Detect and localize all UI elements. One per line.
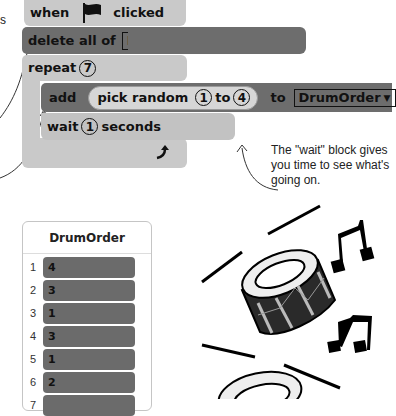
list-item[interactable]: 51 xyxy=(23,348,153,370)
item-value[interactable]: 1 xyxy=(43,349,135,370)
item-index: 3 xyxy=(23,307,43,319)
dropdown-value: DrumOrder xyxy=(299,88,381,108)
item-value[interactable]: 3 xyxy=(43,280,135,301)
item-index: 1 xyxy=(23,261,43,273)
list-item[interactable]: 7 xyxy=(23,394,153,416)
repeat-block-foot xyxy=(22,138,187,168)
music-note-icon xyxy=(331,220,375,273)
list-monitor-drumorder[interactable]: DrumOrder 14 23 31 43 51 62 7 xyxy=(22,221,152,411)
delete-all-label: delete all of xyxy=(28,31,116,51)
list-dropdown[interactable]: DrumOrder▼ xyxy=(294,89,396,107)
list-item[interactable]: 43 xyxy=(23,325,153,347)
random-to-input[interactable]: 4 xyxy=(233,89,250,106)
to-label: to xyxy=(270,88,285,108)
music-note-icon xyxy=(327,315,372,353)
repeat-count-input[interactable]: 7 xyxy=(79,60,96,77)
loop-arrow-icon xyxy=(155,145,171,161)
add-label: add xyxy=(49,88,76,108)
random-from-input[interactable]: 1 xyxy=(195,89,212,106)
drum-icon xyxy=(235,240,335,333)
add-to-list-block[interactable]: add pick random 1 to 4 to DrumOrder▼ xyxy=(41,83,392,112)
wait-block[interactable]: wait 1 seconds xyxy=(41,113,235,140)
item-index: 5 xyxy=(23,353,43,365)
wait-seconds-input[interactable]: 1 xyxy=(81,118,98,135)
item-value[interactable]: 4 xyxy=(43,257,135,278)
item-index: 7 xyxy=(23,399,43,411)
item-value[interactable]: 2 xyxy=(43,372,135,393)
clicked-label: clicked xyxy=(113,3,164,23)
repeat-label: repeat xyxy=(28,58,76,78)
item-value[interactable] xyxy=(43,395,135,416)
list-monitor-title: DrumOrder xyxy=(23,222,151,254)
pick-random-label: pick random xyxy=(97,88,188,108)
dropdown-arrow-icon: ▼ xyxy=(384,88,391,108)
to-word: to xyxy=(215,88,230,108)
repeat-block[interactable]: repeat 7 xyxy=(22,55,187,81)
item-index: 4 xyxy=(23,330,43,342)
pick-random-reporter[interactable]: pick random 1 to 4 xyxy=(88,86,258,110)
when-label: when xyxy=(30,3,69,23)
item-index: 6 xyxy=(23,376,43,388)
wait-annotation: The "wait" block gives you time to see w… xyxy=(271,143,391,188)
item-value[interactable]: 1 xyxy=(43,303,135,324)
drum-illustration xyxy=(200,200,392,399)
list-item[interactable]: 62 xyxy=(23,371,153,393)
item-value[interactable]: 3 xyxy=(43,326,135,347)
delete-all-block-extension xyxy=(128,27,306,54)
list-item[interactable]: 14 xyxy=(23,256,153,278)
when-flag-clicked-block[interactable]: when clicked xyxy=(24,0,186,26)
seconds-label: seconds xyxy=(101,117,161,137)
list-item[interactable]: 31 xyxy=(23,302,153,324)
wait-label: wait xyxy=(47,117,78,137)
green-flag-icon xyxy=(81,3,103,23)
delete-all-block[interactable]: delete all of DrumOrder▼ xyxy=(22,27,130,54)
list-item[interactable]: 23 xyxy=(23,279,153,301)
item-index: 2 xyxy=(23,284,43,296)
